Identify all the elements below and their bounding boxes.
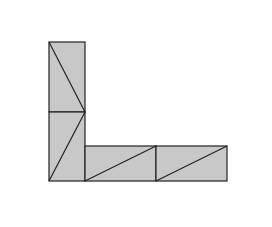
l-shape-diagram [0, 0, 272, 227]
rect-horizontal-left [85, 146, 156, 181]
rect-vertical-top [49, 42, 85, 112]
rect-vertical-bottom [49, 112, 85, 181]
rect-horizontal-right [156, 146, 227, 181]
